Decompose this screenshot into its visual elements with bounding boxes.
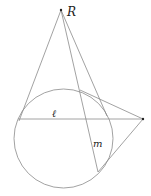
tangent-lower-from-external (98, 119, 143, 172)
label-l: ℓ (52, 108, 56, 119)
point-R (60, 9, 62, 11)
geometry-diagram: R ℓ m (0, 0, 151, 196)
point-external (142, 118, 144, 120)
tangent-left-from-R (19, 10, 61, 121)
label-m: m (93, 138, 102, 149)
label-R: R (66, 5, 76, 19)
tangent-upper-from-external (80, 90, 143, 119)
tangent-right-from-R (61, 10, 107, 116)
